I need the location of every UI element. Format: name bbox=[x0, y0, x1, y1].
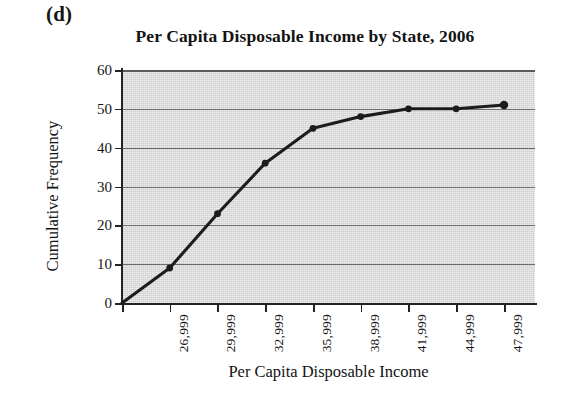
gridline-40 bbox=[122, 148, 535, 149]
gridline-10 bbox=[122, 264, 535, 265]
cumulative-frequency-ogive-figure: (d) Per Capita Disposable Income by Stat… bbox=[0, 0, 561, 396]
x-tick-8 bbox=[504, 304, 506, 312]
x-tick-4 bbox=[313, 304, 315, 312]
y-tick-label-10: 10 bbox=[70, 256, 112, 273]
x-tick-3 bbox=[265, 304, 267, 312]
y-tick-20 bbox=[115, 225, 122, 227]
x-tick-label-38999: 38,999 bbox=[367, 314, 383, 352]
x-tick-2 bbox=[217, 304, 219, 312]
y-axis-title: Cumulative Frequency bbox=[43, 76, 63, 316]
y-tick-label-60: 60 bbox=[70, 62, 112, 79]
x-axis-line bbox=[121, 303, 537, 305]
gridline-50 bbox=[122, 109, 535, 110]
y-tick-label-50: 50 bbox=[70, 100, 112, 117]
y-tick-50 bbox=[115, 109, 122, 111]
x-tick-label-44999: 44,999 bbox=[462, 314, 478, 352]
y-tick-0 bbox=[115, 303, 122, 305]
x-tick-5 bbox=[361, 304, 363, 312]
x-tick-6 bbox=[408, 304, 410, 312]
y-tick-30 bbox=[115, 187, 122, 189]
gridline-30 bbox=[122, 187, 535, 188]
y-tick-60 bbox=[115, 70, 122, 72]
y-tick-label-20: 20 bbox=[70, 217, 112, 234]
x-tick-label-35999: 35,999 bbox=[319, 314, 335, 352]
x-tick-label-29999: 29,999 bbox=[223, 314, 239, 352]
y-tick-40 bbox=[115, 148, 122, 150]
x-axis-title: Per Capita Disposable Income bbox=[122, 362, 535, 382]
x-tick-7 bbox=[456, 304, 458, 312]
y-tick-10 bbox=[115, 264, 122, 266]
chart-title: Per Capita Disposable Income by State, 2… bbox=[85, 26, 525, 47]
x-tick-label-32999: 32,999 bbox=[271, 314, 287, 352]
y-axis-tick-labels-group: 0102030405060 bbox=[62, 0, 112, 396]
x-tick-1 bbox=[170, 304, 172, 312]
y-tick-label-0: 0 bbox=[70, 295, 112, 312]
gridline-20 bbox=[122, 225, 535, 226]
y-tick-label-30: 30 bbox=[70, 178, 112, 195]
x-tick-0 bbox=[122, 304, 124, 312]
x-tick-label-41999: 41,999 bbox=[414, 314, 430, 352]
plot-area bbox=[122, 70, 535, 303]
y-tick-label-40: 40 bbox=[70, 139, 112, 156]
x-tick-label-26999: 26,999 bbox=[176, 314, 192, 352]
x-tick-label-47999: 47,999 bbox=[510, 314, 526, 352]
gridline-60 bbox=[122, 70, 535, 72]
